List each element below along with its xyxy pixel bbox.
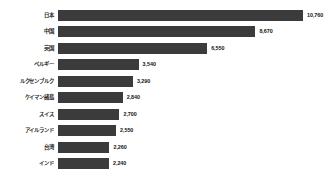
bar-china [58,26,255,37]
bar-track: 6,550 [58,43,334,54]
bar-track: 8,670 [58,26,334,37]
bar-row: 台湾 2,260 [0,139,334,156]
category-label: ベルギー [0,61,58,68]
category-label: 台湾 [0,144,58,151]
bar-chart: 日本 10,760 中国 8,670 英国 6,550 ベルギー [0,0,334,189]
bar-ireland [58,125,116,136]
bar-track: 2,840 [58,92,334,103]
category-label: スイス [0,111,58,118]
category-label: アイルランド [0,127,58,134]
bar-value-label: 2,840 [127,94,140,101]
bar-india [58,158,109,169]
bar-value-label: 3,290 [137,78,150,85]
category-label: ルクセンブルク [0,78,58,85]
category-label: 英国 [0,45,58,52]
category-label: ケイマン諸島 [0,94,58,101]
bar-switzerland [58,109,119,120]
chart-plot-area: 日本 10,760 中国 8,670 英国 6,550 ベルギー [0,7,334,172]
bar-value-label: 3,540 [143,61,156,68]
bar-track: 2,550 [58,125,334,136]
bar-track: 10,760 [58,10,334,21]
bar-value-label: 10,760 [307,12,323,19]
bar-track: 2,260 [58,142,334,153]
bar-row: ルクセンブルク 3,290 [0,73,334,90]
bar-row: ベルギー 3,540 [0,57,334,74]
bar-track: 2,700 [58,109,334,120]
category-label: インド [0,160,58,167]
bar-value-label: 2,700 [123,111,136,118]
bar-row: 中国 8,670 [0,24,334,41]
bar-uk [58,43,207,54]
bar-track: 3,540 [58,59,334,70]
bar-taiwan [58,142,109,153]
bar-luxembourg [58,76,133,87]
bar-japan [58,10,303,21]
bar-row: アイルランド 2,550 [0,123,334,140]
bar-row: スイス 2,700 [0,106,334,123]
category-label: 日本 [0,12,58,19]
bar-track: 3,290 [58,76,334,87]
bar-row: ケイマン諸島 2,840 [0,90,334,107]
bar-value-label: 6,550 [211,45,224,52]
bar-track: 2,240 [58,158,334,169]
bar-value-label: 2,240 [113,160,126,167]
bar-row: 英国 6,550 [0,40,334,57]
category-label: 中国 [0,28,58,35]
bar-value-label: 2,550 [120,127,133,134]
bar-value-label: 8,670 [259,28,272,35]
bar-row: 日本 10,760 [0,7,334,24]
bar-cayman-islands [58,92,123,103]
bar-value-label: 2,260 [113,144,126,151]
bar-belgium [58,59,139,70]
bar-row: インド 2,240 [0,156,334,173]
